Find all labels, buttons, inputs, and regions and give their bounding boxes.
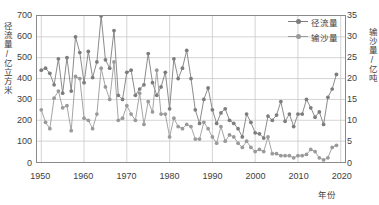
data-point [134,93,138,97]
data-point [240,135,244,139]
data-point [198,137,202,141]
data-point [104,85,108,89]
data-point [163,112,167,116]
data-point [155,93,159,97]
data-point [279,154,283,158]
y-axis-right-tick-label: 5 [347,137,373,146]
data-point [292,125,296,129]
data-point [245,112,249,116]
data-point [335,143,339,147]
data-point [326,95,330,99]
data-point [245,139,249,143]
data-point [181,66,185,70]
data-point [202,98,206,102]
data-point [52,83,56,87]
y-axis-left-tick-label: 0 [6,159,32,168]
x-axis-tick-label: 1980 [149,172,189,181]
y-axis-right-tick-label: 30 [347,32,373,41]
data-point [57,89,61,93]
data-point [146,100,150,104]
data-point [129,68,133,72]
data-point [300,112,304,116]
data-point [61,91,65,95]
x-axis-tick-label: 1970 [106,172,146,181]
x-axis-tick-label: 1990 [193,172,233,181]
data-point [240,146,244,150]
data-point [176,125,180,129]
data-point [249,120,253,124]
data-point [112,29,116,33]
data-point [185,49,189,53]
data-point [86,50,90,54]
data-point [330,87,334,91]
data-point [330,146,334,150]
data-point [292,156,296,160]
data-point [189,77,193,81]
data-point [202,120,206,124]
data-point [39,68,43,72]
data-point [232,135,236,139]
data-point [288,112,292,116]
data-point [61,106,65,110]
x-axis-tick-label: 2000 [236,172,276,181]
data-point [262,136,266,140]
data-point [215,141,219,145]
data-point [322,158,326,162]
data-point [181,127,185,131]
data-point [300,154,304,158]
data-point [193,108,197,112]
data-point [296,112,300,116]
data-point [65,56,69,60]
data-point [95,60,99,64]
data-point [270,152,274,156]
data-point [232,122,236,126]
data-point [270,118,274,122]
data-point [305,153,309,157]
legend-marker-icon [288,32,308,42]
data-point [44,120,48,124]
data-point [262,150,266,154]
data-point [168,135,172,139]
data-point [168,107,172,111]
data-point [335,73,339,77]
x-axis-tick-label: 1950 [20,172,60,181]
data-point [283,119,287,123]
data-point [108,66,112,70]
data-point [206,86,210,90]
data-point [313,115,317,119]
y-axis-left-tick-label: 200 [6,116,32,125]
data-point [275,152,279,156]
legend-item[interactable]: 径流量 [288,14,350,29]
data-point [151,110,155,114]
data-point [317,110,321,114]
data-point [69,89,73,93]
data-point [211,135,215,139]
y-axis-left-tick-label: 600 [6,32,32,41]
data-point [99,66,103,70]
data-point [206,127,210,131]
data-point [317,156,321,160]
data-point [52,96,56,100]
data-point [223,107,227,111]
data-point [48,71,52,75]
x-axis-tick-label: 2010 [279,172,319,181]
data-point [266,135,270,139]
data-point [108,98,112,102]
data-point [309,106,313,110]
data-point [129,112,133,116]
y-axis-left-tick-label: 700 [6,11,32,20]
data-point [125,70,129,74]
data-point [189,125,193,129]
data-point [258,148,262,152]
data-point [48,127,52,131]
data-point [193,137,197,141]
data-point [39,108,43,112]
data-point [198,122,202,126]
data-point [116,118,120,122]
data-point [163,70,167,74]
data-point [74,75,78,79]
y-axis-right-tick-label: 10 [347,116,373,125]
data-point [99,16,103,18]
data-point [142,123,146,127]
legend-item[interactable]: 输沙量 [288,29,350,44]
